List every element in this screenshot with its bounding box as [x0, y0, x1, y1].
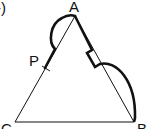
label-c: C: [1, 120, 12, 129]
label-a: A: [69, 0, 79, 15]
part-label: -): [0, 0, 6, 16]
triangle-diagram: -) A P C B: [0, 0, 148, 129]
label-p: P: [29, 52, 39, 69]
label-b: B: [137, 120, 147, 129]
